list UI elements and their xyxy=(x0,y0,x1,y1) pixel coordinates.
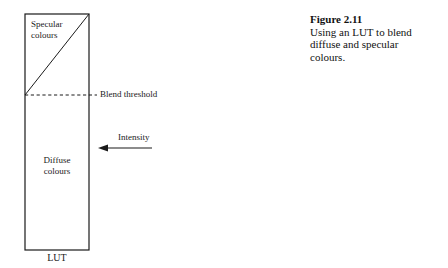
intensity-arrow-head-icon xyxy=(98,144,108,151)
blend-threshold-label: Blend threshold xyxy=(100,89,157,100)
figure-caption-title: Figure 2.11 xyxy=(310,13,435,26)
intensity-label: Intensity xyxy=(118,132,150,143)
figure-caption-body: Using an LUT to blend diffuse and specul… xyxy=(310,26,435,64)
lut-rectangle xyxy=(25,14,89,250)
specular-colours-line2: colours xyxy=(31,30,58,40)
diffuse-colours-line2: colours xyxy=(44,166,71,176)
specular-colours-line1: Specular xyxy=(31,19,63,29)
lut-label: LUT xyxy=(25,252,89,263)
specular-colours-label: Specular colours xyxy=(31,19,63,41)
figure-caption: Figure 2.11 Using an LUT to blend diffus… xyxy=(310,13,435,63)
diffuse-colours-line1: Diffuse xyxy=(44,155,71,165)
diffuse-colours-label: Diffuse colours xyxy=(34,155,80,177)
figure-canvas: Specular colours Diffuse colours Blend t… xyxy=(0,0,448,268)
